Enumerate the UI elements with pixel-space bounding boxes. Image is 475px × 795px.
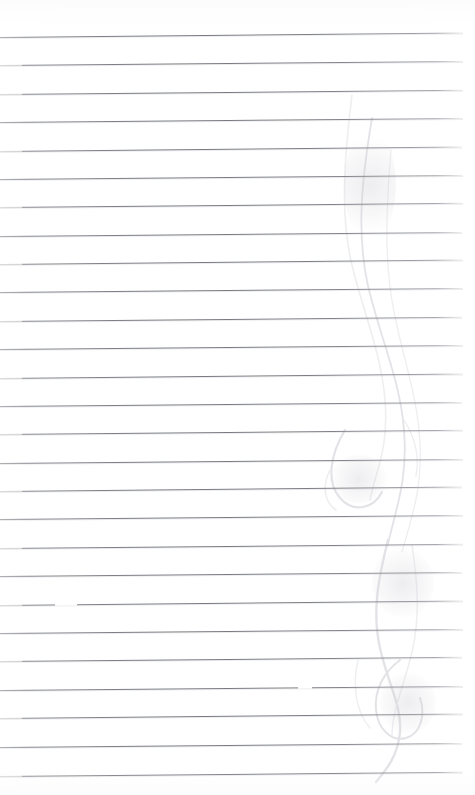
- writing-area[interactable]: [0, 0, 475, 795]
- scanned-notebook-page: [0, 0, 475, 795]
